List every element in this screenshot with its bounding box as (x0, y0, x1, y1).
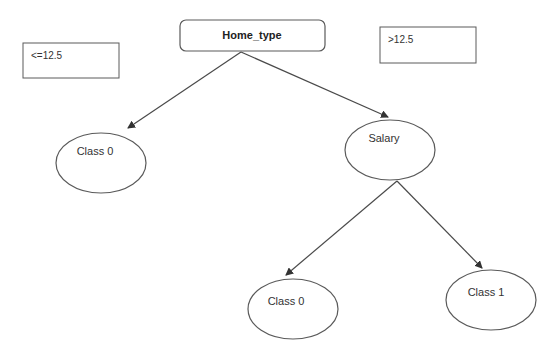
split-label-left: <=12.5 (23, 43, 119, 78)
edge-salary-to-class0-bottom (286, 181, 397, 275)
node-class0-left: Class 0 (56, 133, 146, 193)
node-class0-bottom: Class 0 (248, 279, 338, 339)
decision-tree-diagram: Home_type <=12.5 >12.5 Class 0 Salary Cl… (0, 0, 560, 357)
node-salary-label: Salary (368, 132, 400, 144)
node-class0-left-label: Class 0 (77, 145, 114, 157)
root-node: Home_type (180, 20, 325, 51)
root-node-label: Home_type (222, 29, 281, 41)
node-class1-label: Class 1 (468, 286, 505, 298)
split-label-right-text: >12.5 (388, 34, 414, 45)
split-label-right: >12.5 (380, 27, 476, 63)
edge-root-to-class0-left (128, 52, 241, 128)
edge-root-to-salary (241, 52, 388, 117)
split-label-left-text: <=12.5 (31, 50, 63, 61)
node-salary: Salary (345, 120, 435, 180)
edge-salary-to-class1 (397, 181, 482, 268)
node-class0-bottom-label: Class 0 (268, 295, 305, 307)
node-class1: Class 1 (446, 270, 536, 330)
